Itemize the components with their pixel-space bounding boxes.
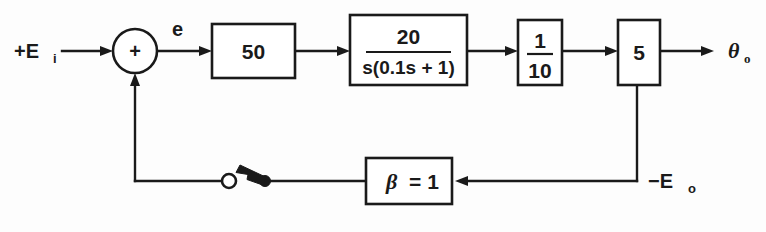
block-diagram-canvas: + 50 20 s(0.1s + 1) 1 10 5 β = 1 +E i: [0, 0, 766, 232]
arrowhead-into-beta: [455, 176, 468, 186]
block-gain-one-tenth-denominator: 10: [528, 59, 551, 82]
output-label-subscript: o: [744, 51, 751, 66]
switch-open-terminal[interactable]: [222, 174, 236, 188]
block-beta-equals-value: = 1: [409, 170, 439, 193]
block-beta-symbol: β: [385, 169, 398, 194]
input-label-main: +E: [14, 40, 39, 62]
arrowhead-output: [701, 46, 714, 56]
arrowhead-sum-to-gain50: [199, 46, 212, 56]
block-plant-numerator: 20: [397, 25, 420, 48]
input-label-subscript: i: [53, 51, 57, 66]
arrowhead-input-to-sum: [100, 46, 113, 56]
block-plant-denominator: s(0.1s + 1): [362, 57, 454, 78]
error-signal-label: e: [172, 18, 183, 40]
arrowhead-plant-to-gain-tenth: [505, 46, 518, 56]
arrowhead-gain-tenth-to-gain5: [605, 46, 618, 56]
block-gain-50-label: 50: [242, 40, 265, 63]
arrowhead-gain50-to-plant: [337, 46, 350, 56]
feedback-label-subscript: o: [688, 181, 696, 196]
block-gain-one-tenth-numerator: 1: [534, 29, 546, 52]
output-label-main: θ: [728, 38, 740, 63]
control-system-block-diagram: + 50 20 s(0.1s + 1) 1 10 5 β = 1 +E i: [0, 0, 766, 232]
feedback-label-main: −E: [648, 170, 673, 192]
arrowhead-into-sum: [130, 73, 140, 86]
summing-junction-plus-sign: +: [129, 40, 141, 62]
block-gain-5-label: 5: [633, 41, 645, 64]
switch-blade[interactable]: [236, 165, 266, 186]
